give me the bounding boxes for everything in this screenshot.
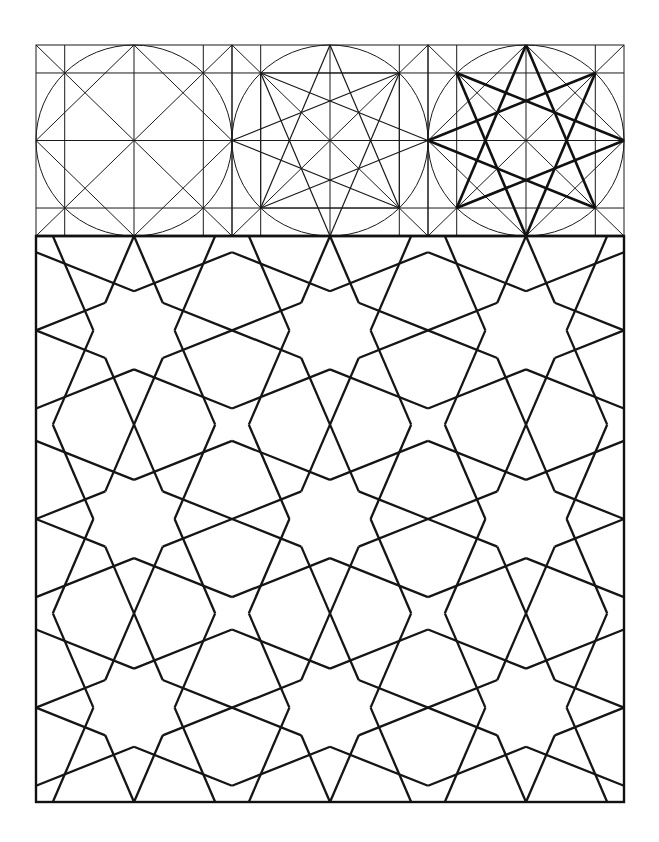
- star-arm: [330, 236, 359, 303]
- star-arm: [330, 735, 359, 802]
- star-arm: [555, 708, 624, 736]
- star-arm: [301, 613, 330, 680]
- tessellation-border: [36, 236, 624, 802]
- star-arm: [301, 425, 330, 492]
- star-arm: [134, 425, 163, 492]
- star-edge: [261, 45, 330, 208]
- pattern-diagram: [0, 0, 659, 842]
- star-arm: [359, 330, 428, 358]
- star-edge: [261, 73, 428, 141]
- star-motif: [36, 236, 232, 425]
- star-tessellation: [36, 236, 624, 802]
- star-arm: [232, 680, 301, 708]
- star-arm: [359, 708, 428, 736]
- star-arm: [330, 425, 359, 492]
- star-arm: [301, 236, 330, 303]
- star-arm: [330, 613, 359, 680]
- star-arm: [428, 330, 497, 358]
- construction-panels: [36, 45, 624, 236]
- star-motif: [232, 613, 428, 802]
- star-arm: [555, 330, 624, 358]
- star-arm: [497, 236, 526, 303]
- star-arm: [232, 330, 301, 358]
- star-arm: [163, 303, 232, 331]
- star-arm: [555, 491, 624, 519]
- diagram-frame: [36, 236, 624, 802]
- star-arm: [105, 425, 134, 492]
- star-arm: [105, 358, 134, 425]
- star-arm: [359, 680, 428, 708]
- star-arm: [134, 236, 163, 303]
- star-motif: [36, 425, 232, 614]
- star-arm: [232, 519, 301, 547]
- star-arm: [428, 519, 497, 547]
- star-arm: [330, 358, 359, 425]
- star-arm: [555, 680, 624, 708]
- star-arm: [359, 519, 428, 547]
- star-arm: [36, 330, 105, 358]
- star-arm: [105, 236, 134, 303]
- star-arm: [526, 735, 555, 802]
- star-arm: [555, 519, 624, 547]
- star-arm: [36, 680, 105, 708]
- star-arm: [134, 613, 163, 680]
- star-arm: [526, 236, 555, 303]
- panel-2: [232, 45, 428, 236]
- star-arm: [497, 547, 526, 614]
- star-arm: [428, 303, 497, 331]
- star-arm: [36, 491, 105, 519]
- star-arm: [36, 519, 105, 547]
- star-arm: [301, 735, 330, 802]
- star-arm: [526, 613, 555, 680]
- star-arm: [359, 303, 428, 331]
- star-edge: [232, 73, 399, 141]
- star-edge: [330, 73, 399, 236]
- star-arm: [428, 708, 497, 736]
- star-motif: [428, 425, 624, 614]
- star-arm: [526, 358, 555, 425]
- star-arm: [36, 303, 105, 331]
- star-arm: [163, 519, 232, 547]
- panel-3: [428, 45, 624, 236]
- star-motif: [232, 425, 428, 614]
- star-motif: [428, 613, 624, 802]
- star-arm: [497, 425, 526, 492]
- star-arm: [105, 613, 134, 680]
- star-arm: [428, 680, 497, 708]
- star-arm: [301, 358, 330, 425]
- star-motif: [36, 613, 232, 802]
- star-arm: [105, 547, 134, 614]
- star-edge: [261, 73, 330, 236]
- star-arm: [134, 358, 163, 425]
- star-edge: [232, 141, 399, 209]
- star-edge: [330, 45, 399, 208]
- star-arm: [36, 708, 105, 736]
- star-motif: [232, 236, 428, 425]
- star-arm: [497, 613, 526, 680]
- star-arm: [232, 303, 301, 331]
- star-arm: [134, 547, 163, 614]
- star-arm: [330, 547, 359, 614]
- star-arm: [301, 547, 330, 614]
- star-arm: [105, 735, 134, 802]
- star-motif: [428, 236, 624, 425]
- star-arm: [163, 491, 232, 519]
- tessellation-lines: [36, 236, 624, 802]
- star-arm: [163, 330, 232, 358]
- star-arm: [232, 708, 301, 736]
- star-arm: [134, 735, 163, 802]
- star-arm: [359, 491, 428, 519]
- star-edge: [261, 141, 428, 209]
- star-arm: [555, 303, 624, 331]
- star-arm: [497, 735, 526, 802]
- star-arm: [163, 680, 232, 708]
- star-arm: [232, 491, 301, 519]
- panel-1: [36, 45, 232, 236]
- star-arm: [526, 547, 555, 614]
- star-arm: [526, 425, 555, 492]
- star-arm: [163, 708, 232, 736]
- star-arm: [428, 491, 497, 519]
- star-arm: [497, 358, 526, 425]
